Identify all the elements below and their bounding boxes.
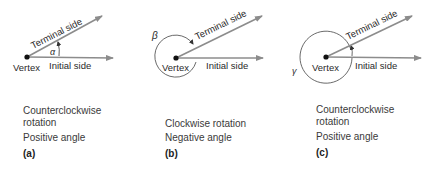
caption-sign: Positive angle <box>23 132 85 144</box>
angle-arc <box>58 42 59 56</box>
terminal-side-label: Terminal side <box>344 7 399 41</box>
vertex-dot <box>323 54 328 59</box>
initial-side-label: Initial side <box>355 60 397 71</box>
caption-sign: Positive angle <box>316 131 378 143</box>
caption-sign: Negative angle <box>165 132 232 144</box>
caption-rotation-line2: rotation <box>316 116 394 128</box>
initial-side-ray <box>27 57 113 58</box>
angle-diagrams: α Vertex Initial side Terminal side β Ve… <box>0 0 426 110</box>
initial-side-ray <box>326 57 421 58</box>
panel-a-diagram: α Vertex Initial side Terminal side <box>13 16 113 73</box>
panel-tag: (c) <box>316 147 328 158</box>
angle-symbol: β <box>151 30 158 41</box>
caption-rotation: Counterclockwise rotation <box>316 104 394 128</box>
rotation-arrow-tip <box>351 46 352 56</box>
panel-b-diagram: β Vertex Initial side Terminal side <box>151 7 263 77</box>
caption-rotation-line2: rotation <box>23 117 101 129</box>
vertex-label: Vertex <box>162 62 189 73</box>
panel-tag: (a) <box>23 148 35 159</box>
caption-rotation: Clockwise rotation <box>165 118 246 130</box>
vertex-label: Vertex <box>13 62 40 73</box>
caption-rotation-line1: Counterclockwise <box>23 105 101 117</box>
terminal-side-label: Terminal side <box>29 16 84 51</box>
vertex-dot <box>24 54 29 59</box>
panel-c-diagram: γ Vertex Initial side Terminal side <box>292 7 421 83</box>
panel-tag: (b) <box>165 148 178 159</box>
caption-rotation-line1: Counterclockwise <box>316 104 394 116</box>
angle-symbol: α <box>50 47 56 57</box>
vertex-label: Vertex <box>312 62 339 73</box>
initial-side-label: Initial side <box>49 60 91 71</box>
angle-symbol: γ <box>292 66 297 76</box>
caption-rotation: Counterclockwise rotation <box>23 105 101 129</box>
initial-side-label: Initial side <box>206 60 248 71</box>
vertex-dot <box>173 55 178 60</box>
